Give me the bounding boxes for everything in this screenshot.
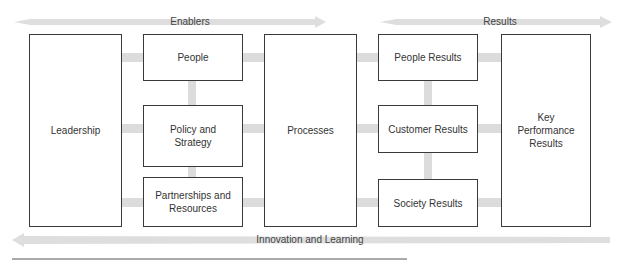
- key-performance-results-box: Key Performance Results: [501, 34, 591, 227]
- society-results-box: Society Results: [378, 179, 478, 227]
- society-results-label: Society Results: [394, 197, 463, 210]
- key-performance-results-label: Key Performance Results: [514, 111, 578, 150]
- enablers-label: Enablers: [140, 16, 240, 27]
- processes-box: Processes: [264, 34, 357, 227]
- people-box: People: [143, 34, 243, 81]
- leadership-label: Leadership: [51, 124, 100, 137]
- people-label: People: [177, 51, 208, 64]
- people-results-label: People Results: [394, 51, 461, 64]
- customer-results-label: Customer Results: [388, 123, 467, 136]
- policy-strategy-label: Policy and Strategy: [163, 123, 223, 149]
- policy-strategy-box: Policy and Strategy: [143, 105, 243, 167]
- processes-label: Processes: [287, 124, 334, 137]
- partnerships-resources-label: Partnerships and Resources: [153, 189, 233, 215]
- results-label: Results: [470, 16, 530, 27]
- leadership-box: Leadership: [29, 34, 122, 227]
- customer-results-box: Customer Results: [378, 105, 478, 153]
- people-results-box: People Results: [378, 34, 478, 81]
- partnerships-resources-box: Partnerships and Resources: [143, 177, 243, 227]
- innovation-label: Innovation and Learning: [200, 234, 420, 245]
